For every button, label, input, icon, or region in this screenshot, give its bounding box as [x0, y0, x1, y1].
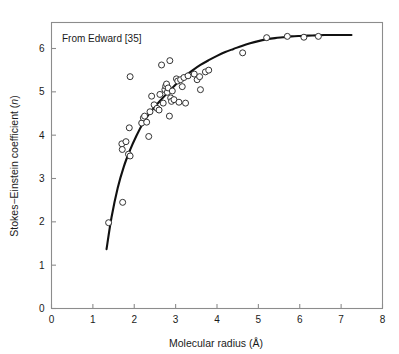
data-point	[197, 87, 203, 93]
y-tick-label: 0	[39, 303, 45, 314]
x-tick-label: 8	[380, 314, 386, 325]
data-point	[157, 91, 163, 97]
x-tick-label: 4	[214, 314, 220, 325]
y-tick-label: 5	[39, 86, 45, 97]
data-point	[159, 62, 165, 68]
data-point	[123, 139, 129, 145]
x-tick-label: 0	[49, 314, 55, 325]
data-point	[120, 199, 126, 205]
annotation-label: From Edward [35]	[62, 33, 142, 44]
data-point	[156, 107, 162, 113]
data-point	[147, 109, 153, 115]
data-point	[185, 73, 191, 79]
data-point	[264, 35, 270, 41]
data-point	[160, 100, 166, 106]
data-point	[126, 125, 132, 131]
x-tick-label: 1	[90, 314, 96, 325]
y-axis-title: Stokes−Einstein coefficient (n)	[8, 95, 20, 236]
data-point	[106, 220, 112, 226]
data-point	[127, 74, 133, 80]
data-point	[183, 100, 189, 106]
data-point	[179, 84, 185, 90]
data-point	[206, 67, 212, 73]
data-point	[146, 133, 152, 139]
data-point	[119, 146, 125, 152]
data-point	[240, 50, 246, 56]
data-point	[176, 99, 182, 105]
y-tick-label: 3	[39, 173, 45, 184]
y-axis-title-main: Stokes−Einstein coefficient (	[8, 104, 20, 237]
data-point	[167, 58, 173, 64]
x-tick-label: 2	[131, 314, 137, 325]
y-tick-label: 2	[39, 216, 45, 227]
x-tick-label: 5	[256, 314, 262, 325]
data-point	[144, 119, 150, 125]
data-point	[197, 74, 203, 80]
data-point	[315, 33, 321, 39]
y-tick-label: 4	[39, 130, 45, 141]
x-axis-title: Molecular radius (Å)	[169, 337, 263, 349]
data-point	[284, 33, 290, 39]
figure-container: 012345678 0123456 From Edward [35] Molec…	[0, 0, 399, 354]
data-point	[127, 153, 133, 159]
x-tick-label: 7	[338, 314, 344, 325]
y-tick-label: 1	[39, 260, 45, 271]
x-tick-label: 6	[297, 314, 303, 325]
data-point	[301, 34, 307, 40]
data-point	[149, 93, 155, 99]
data-point	[169, 88, 175, 94]
x-tick-label: 3	[173, 314, 179, 325]
y-axis-title-close: )	[8, 95, 20, 99]
data-point	[166, 113, 172, 119]
data-point	[142, 113, 148, 119]
scatter-plot: 012345678 0123456 From Edward [35] Molec…	[0, 0, 399, 354]
plot-background	[0, 0, 399, 354]
y-tick-label: 6	[39, 43, 45, 54]
